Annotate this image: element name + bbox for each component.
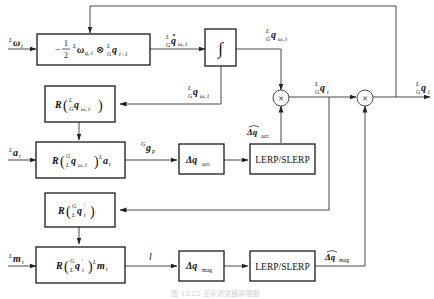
svg-text:g: g [145,142,151,153]
svg-text:acc: acc [261,133,269,139]
signal-dq-acc-hat-label: Δq acc [246,126,269,140]
svg-text:L: L [106,43,111,49]
svg-text:R: R [55,260,63,271]
svg-text:⊗: ⊗ [96,44,104,55]
svg-text:L: L [187,85,192,91]
svg-text:−: − [55,44,61,55]
figure-caption: 图 13.25 互补滤波器原理图 [171,289,259,298]
svg-text:q: q [320,82,325,93]
input-accel-label: L a t [8,147,21,159]
signal-q-dot-label: L G q ω, t [165,34,187,48]
lerp-slerp-mag-label: LERP/SLERP [255,262,309,272]
svg-text:q: q [421,82,426,93]
svg-text:ω: ω [77,44,84,55]
svg-text:t−1: t−1 [119,51,128,57]
svg-text:Δq: Δq [185,154,197,165]
svg-text:t: t [22,259,24,265]
svg-text:t: t [19,153,21,159]
block-rotate-accel [36,142,125,178]
svg-text:a: a [103,155,108,166]
svg-text:(: ( [63,98,68,114]
svg-text:q: q [71,155,76,166]
svg-text:Δq: Δq [246,127,258,137]
signal-dq-mag-hat-label: Δq mag [324,251,349,264]
svg-text:ω, t: ω, t [200,93,209,99]
svg-text:(: ( [64,259,69,275]
svg-text:R: R [51,155,59,166]
svg-text:Δq: Δq [185,260,197,271]
svg-text:L: L [314,81,319,87]
svg-text:q: q [77,205,82,216]
svg-text:q: q [193,86,198,97]
svg-text:R: R [57,205,65,216]
lerp-slerp-acc-label: LERP/SLERP [255,155,309,165]
arrow-dq-mag-hat [315,106,365,266]
input-mag-label: L m t [8,253,24,265]
block-diagram: × × − 1 2 L ω q, t ⊗ L G q t−1 ∫ R ( L G… [0,0,434,299]
svg-text:a: a [13,147,18,158]
svg-text:mag: mag [202,267,212,273]
svg-text:L: L [68,97,73,103]
multiply-node-2: × [357,90,373,106]
svg-text:t: t [428,89,430,95]
svg-text:′: ′ [327,81,329,87]
block-quat-derivative [37,34,150,65]
svg-text:q: q [112,44,117,55]
svg-text:acc: acc [202,161,210,167]
svg-text:ω, t: ω, t [81,106,90,112]
signal-q-prime-label: L G q ′ t [314,81,329,95]
svg-text:L: L [265,28,270,34]
svg-text:m: m [13,253,21,264]
svg-text:R: R [54,99,62,110]
svg-text:q: q [271,29,276,40]
svg-text:mag: mag [339,257,349,263]
svg-text:q: q [171,35,176,46]
arrow-q-omega [236,49,281,90]
svg-text:L: L [65,162,70,168]
svg-text:L: L [69,267,74,273]
svg-text:ω, t: ω, t [78,162,87,168]
svg-text:(: ( [60,154,65,170]
svg-text:p: p [151,148,155,154]
svg-text:2: 2 [64,51,68,60]
svg-text:): ) [98,98,103,114]
svg-text:ω: ω [13,37,20,48]
signal-gp-label: G g p [141,141,155,154]
svg-text:L: L [165,34,170,40]
svg-text:Δq: Δq [324,252,336,262]
svg-text:(: ( [66,204,71,220]
signal-l-label: l [149,251,152,262]
block-rotate-mag [36,247,125,283]
svg-text:ω, t: ω, t [178,41,187,47]
signal-q-omega-feedback-label: L G q ω, t [187,85,209,99]
svg-text:): ) [90,204,95,220]
svg-text:t: t [21,43,23,49]
svg-text:L: L [415,81,420,87]
input-gyro-label: L ω t [8,37,23,49]
svg-text:q: q [75,260,80,271]
svg-text:t: t [327,89,329,95]
svg-text:1: 1 [64,39,68,48]
signal-output-label: L G q t [415,81,430,95]
multiply-2-icon: × [362,93,368,104]
svg-text:ω, t: ω, t [278,36,287,42]
svg-text:L: L [71,212,76,218]
signal-q-omega-label: L G q ω, t [265,28,287,42]
svg-text:m: m [97,260,105,271]
multiply-node-1: × [273,90,289,106]
svg-text:q, t: q, t [85,50,93,56]
multiply-1-icon: × [278,93,284,104]
svg-text:q: q [74,99,79,110]
